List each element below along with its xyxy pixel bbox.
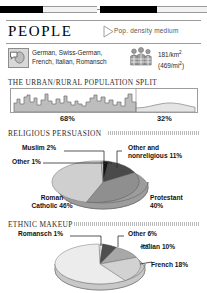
top-bar-segment-2 bbox=[43, 6, 97, 13]
pop-density-subtitle: Pop. density medium bbox=[114, 27, 179, 34]
facts-row: German, Swiss-German, French, Italian, R… bbox=[6, 48, 201, 72]
urban-rural-chart bbox=[10, 88, 198, 113]
top-bar-segment-1 bbox=[0, 6, 43, 13]
label-other-religion: Other 1% bbox=[12, 158, 41, 166]
density-imperial: (469/mi2) bbox=[158, 59, 184, 70]
religion-heading-rule bbox=[108, 131, 200, 135]
label-french: French 18% bbox=[151, 261, 188, 269]
density-imperial-end: ) bbox=[182, 62, 184, 69]
label-italian: Italian 10% bbox=[141, 243, 175, 251]
religion-heading: RELIGIOUS PERSUASION bbox=[8, 129, 101, 138]
label-nonreligious-line1: Other and bbox=[128, 144, 159, 151]
triangle-right-icon bbox=[94, 25, 103, 37]
page-title: PEOPLE bbox=[8, 22, 73, 41]
ethnic-pie-chart: Romansch 1% Other 6% Italian 10% French … bbox=[0, 230, 207, 293]
label-roman-catholic: Roman Catholic 46% bbox=[24, 194, 80, 211]
density-metric-sup: 2 bbox=[179, 50, 182, 55]
density-imperial-value: (469/mi bbox=[158, 62, 179, 69]
ethnic-heading: ETHNIC MAKEUP bbox=[8, 220, 73, 229]
languages-text: German, Swiss-German, French, Italian, R… bbox=[32, 48, 107, 66]
label-other-ethnic: Other 6% bbox=[128, 230, 157, 238]
languages-line-1: German, Swiss-German, bbox=[32, 48, 107, 57]
urban-rural-heading: THE URBAN/RURAL POPULATION SPLIT bbox=[8, 78, 157, 87]
header-rule-bottom bbox=[6, 43, 201, 44]
label-nonreligious: Other and nonreligious 11% bbox=[128, 144, 206, 161]
label-romansch: Romansch 1% bbox=[18, 230, 63, 238]
density-text: 181/km2 (469/mi2) bbox=[158, 48, 184, 70]
label-protestant-line1: Protestant bbox=[150, 194, 183, 201]
speech-head-icon bbox=[8, 48, 29, 68]
top-decorative-bar bbox=[0, 6, 207, 13]
section-header: PEOPLE Pop. density medium bbox=[6, 20, 201, 44]
label-protestant: Protestant 40% bbox=[150, 194, 183, 211]
top-bar-segment-3 bbox=[100, 6, 157, 13]
label-nonreligious-line2: nonreligious 11% bbox=[128, 152, 182, 159]
label-catholic-line1: Roman bbox=[41, 194, 63, 201]
three-people-icon bbox=[129, 47, 153, 67]
urban-rural-percent-labels: 68% 32% bbox=[10, 114, 198, 124]
religion-pie-chart: Muslim 2% Other 1% Other and nonreligiou… bbox=[0, 138, 207, 216]
languages-line-2: French, Italian, Romansch bbox=[32, 57, 107, 66]
top-bar-segment-4 bbox=[157, 6, 207, 13]
header-rule-top bbox=[6, 20, 201, 21]
density-metric: 181/km2 bbox=[158, 48, 184, 59]
label-catholic-line2: Catholic 46% bbox=[31, 202, 72, 209]
label-protestant-line2: 40% bbox=[150, 202, 163, 209]
density-metric-value: 181/km bbox=[158, 51, 179, 58]
ethnic-heading-rule bbox=[74, 222, 200, 226]
people-panel: PEOPLE Pop. density medium German, Swiss… bbox=[0, 0, 207, 293]
urban-rural-svg bbox=[11, 89, 197, 112]
urban-percent: 68% bbox=[60, 114, 75, 123]
label-muslim: Muslim 2% bbox=[22, 144, 56, 152]
rural-percent: 32% bbox=[157, 114, 172, 123]
